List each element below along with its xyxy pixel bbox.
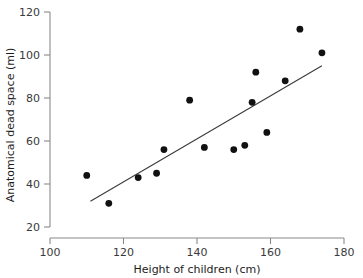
y-tick-label: 20 xyxy=(26,221,40,234)
x-axis-title: Height of children (cm) xyxy=(134,263,261,276)
x-tick-label: 120 xyxy=(113,246,134,259)
plot-canvas: 120 100 80 60 40 20 100 120 140 160 180 … xyxy=(0,0,363,278)
y-tick-label: 40 xyxy=(26,178,40,191)
x-tick-label: 180 xyxy=(334,246,355,259)
x-tick-label: 100 xyxy=(40,246,61,259)
data-point xyxy=(161,146,168,153)
data-point xyxy=(105,200,112,207)
data-point xyxy=(282,77,289,84)
data-point xyxy=(263,129,270,136)
data-point xyxy=(186,97,193,104)
data-point xyxy=(252,69,259,76)
data-point xyxy=(83,172,90,179)
y-axis-title: Anatomical dead space (ml) xyxy=(4,48,17,202)
data-point xyxy=(319,49,326,56)
y-tick-label: 80 xyxy=(26,92,40,105)
y-tick-label: 60 xyxy=(26,135,40,148)
data-point xyxy=(153,170,160,177)
data-point xyxy=(249,99,256,106)
data-point xyxy=(201,144,208,151)
plot-background xyxy=(0,0,363,278)
y-tick-label: 120 xyxy=(19,6,40,19)
data-point xyxy=(297,26,304,33)
y-tick-label: 100 xyxy=(19,49,40,62)
data-point xyxy=(135,174,142,181)
x-tick-label: 140 xyxy=(187,246,208,259)
data-point xyxy=(230,146,237,153)
x-tick-label: 160 xyxy=(260,246,281,259)
data-point xyxy=(241,142,248,149)
scatter-plot-figure: 120 100 80 60 40 20 100 120 140 160 180 … xyxy=(0,0,363,278)
